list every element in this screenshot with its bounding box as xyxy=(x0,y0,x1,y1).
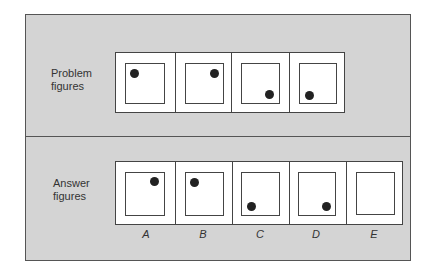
dot-icon xyxy=(190,178,199,187)
problem-figure-3 xyxy=(231,53,289,112)
answer-label-line2: figures xyxy=(53,190,90,203)
answer-option-a[interactable] xyxy=(116,162,175,224)
answer-figures-strip xyxy=(115,161,403,225)
square-icon xyxy=(125,63,165,104)
answer-option-c[interactable] xyxy=(232,162,289,224)
option-letter-b: B xyxy=(193,228,213,240)
option-letter-d: D xyxy=(306,228,326,240)
square-icon xyxy=(298,172,336,216)
answer-label-line1: Answer xyxy=(53,177,90,190)
dot-icon xyxy=(150,177,159,186)
answer-figures-label: Answer figures xyxy=(53,177,90,203)
square-icon xyxy=(241,63,280,104)
option-letter-c: C xyxy=(250,228,270,240)
square-icon xyxy=(241,172,280,216)
answer-option-d[interactable] xyxy=(289,162,346,224)
dot-icon xyxy=(305,91,314,100)
square-icon xyxy=(299,63,337,104)
problem-label-line1: Problem xyxy=(51,67,92,80)
square-icon xyxy=(356,172,395,215)
problem-figures-label: Problem figures xyxy=(51,67,92,93)
answer-option-b[interactable] xyxy=(175,162,232,224)
dot-icon xyxy=(130,69,139,78)
dot-icon xyxy=(265,90,274,99)
square-icon xyxy=(125,172,165,216)
option-letter-a: A xyxy=(136,228,156,240)
problem-label-line2: figures xyxy=(51,80,92,93)
answer-option-e[interactable] xyxy=(346,162,402,224)
option-letter-e: E xyxy=(364,228,384,240)
problem-figure-1 xyxy=(116,53,175,112)
problem-figure-4 xyxy=(289,53,346,112)
dot-icon xyxy=(247,202,256,211)
section-divider xyxy=(25,136,411,137)
problem-figure-2 xyxy=(175,53,231,112)
dot-icon xyxy=(210,69,219,78)
problem-figures-strip xyxy=(115,52,345,113)
dot-icon xyxy=(322,202,331,211)
square-icon xyxy=(185,172,224,216)
square-icon xyxy=(185,63,224,104)
